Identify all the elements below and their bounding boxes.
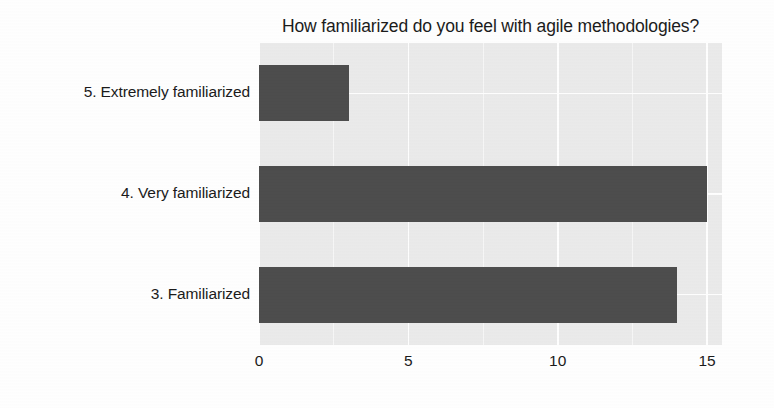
bar-chart: How familiarized do you feel with agile … <box>0 0 774 408</box>
x-axis-tick-label: 10 <box>549 352 566 370</box>
x-axis-tick-label: 5 <box>404 352 413 370</box>
y-axis-tick-label: 4. Very familiarized <box>12 184 250 202</box>
x-axis-tick-label: 15 <box>698 352 715 370</box>
y-axis-tick-label: 3. Familiarized <box>12 285 250 303</box>
bar <box>259 65 349 121</box>
y-axis-labels: 5. Extremely familiarized4. Very familia… <box>12 43 250 345</box>
x-axis-tick-label: 0 <box>255 352 264 370</box>
bar <box>259 267 677 323</box>
y-axis-tick-label: 5. Extremely familiarized <box>12 83 250 101</box>
bar <box>259 166 707 222</box>
x-axis-labels: 051015 <box>259 352 722 382</box>
plot-panel <box>259 43 722 345</box>
chart-title: How familiarized do you feel with agile … <box>259 16 722 37</box>
